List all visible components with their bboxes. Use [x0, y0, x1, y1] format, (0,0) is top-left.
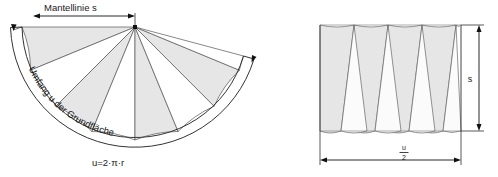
slant-label: Mantellinie s — [44, 2, 97, 13]
slant-dimension-arrow-right — [128, 13, 135, 18]
width-dimension-arrow-right — [454, 157, 461, 162]
left-diagram-group: Mantellinie s Umfang u der Grundfläche u… — [11, 2, 257, 168]
width-label-denominator: 2 — [402, 154, 406, 161]
figure-root: Mantellinie s Umfang u der Grundfläche u… — [0, 0, 498, 177]
slant-dimension — [33, 13, 135, 27]
circumference-formula: u=2·π·r — [92, 157, 124, 168]
width-dimension-arrow-left — [320, 157, 327, 162]
width-dimension — [320, 131, 461, 165]
height-label: s — [468, 74, 473, 84]
right-diagram-group: s u 2 — [320, 25, 484, 165]
height-dimension-arrow-bottom — [477, 124, 482, 131]
sector-wedges — [22, 27, 244, 140]
slant-dimension-arrow-left — [33, 13, 40, 18]
cone-development-figure: Mantellinie s Umfang u der Grundfläche u… — [0, 0, 498, 177]
arc-dimension-arrow-right — [252, 55, 257, 63]
height-dimension-arrow-top — [477, 25, 482, 32]
height-dimension — [461, 25, 484, 131]
width-label-fraction: u 2 — [400, 144, 409, 161]
width-label-numerator: u — [402, 144, 406, 151]
